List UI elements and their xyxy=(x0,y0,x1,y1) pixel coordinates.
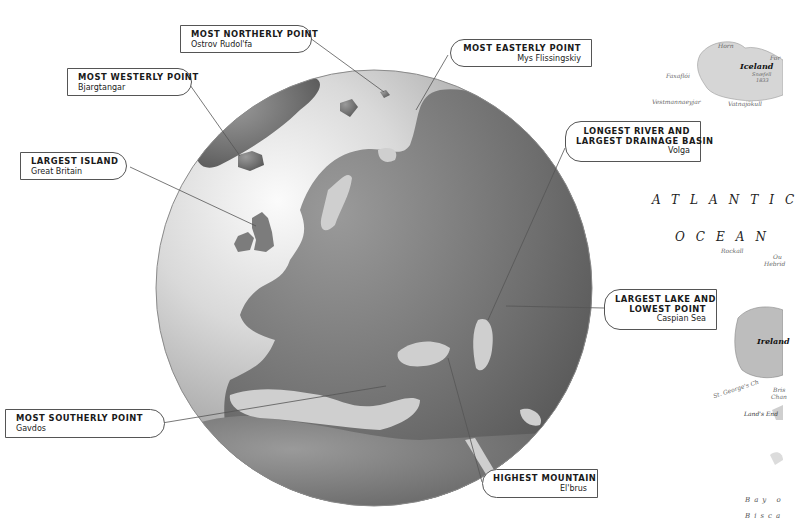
label-vestmannaeyjar: Vestmannaeyjar xyxy=(652,98,701,105)
label-faxafloi: Faxaflói xyxy=(666,72,690,79)
label-outer-hebrides-1: Ou xyxy=(773,253,782,260)
ocean-label-atlantic: ATLANTIC xyxy=(652,193,799,207)
label-lands-end: Land's End xyxy=(744,410,778,417)
label-bay-of-biscay-1: Bay o xyxy=(745,496,785,504)
label-bristol-1: Bris xyxy=(773,386,785,393)
label-snaefell-elevation: 1833 xyxy=(756,77,769,83)
label-for: For xyxy=(770,54,780,61)
label-iceland: Iceland xyxy=(740,61,773,71)
label-bristol-2: Chan xyxy=(771,393,787,400)
ocean-label-ocean: OCEAN xyxy=(675,230,777,244)
label-outer-hebrides-2: Hebrid xyxy=(764,260,785,267)
label-rockall: Rockall xyxy=(721,247,744,254)
label-bay-of-biscay-2: Bisca xyxy=(745,512,784,520)
label-vatnajokull: Vatnajökull xyxy=(728,100,762,107)
label-ireland: Ireland xyxy=(757,336,790,346)
label-horn: Horn xyxy=(718,42,734,49)
